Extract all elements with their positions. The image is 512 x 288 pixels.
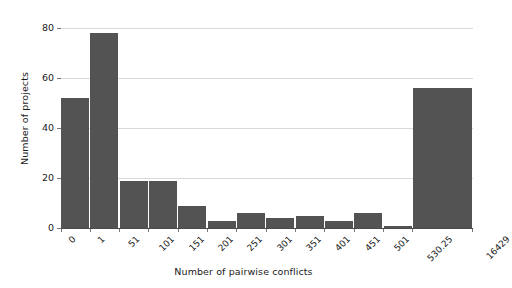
histogram-bar [413,88,472,228]
histogram-bar [178,206,206,229]
plot-area [61,18,473,228]
y-tick-label: 20 [26,173,54,183]
y-tick-label: 40 [26,123,54,133]
histogram-bar [149,181,177,229]
histogram-bar [90,33,118,228]
y-gridline [61,128,473,129]
x-tick-mark [383,229,384,232]
histogram-bar [208,221,236,229]
histogram-bar [325,221,353,229]
x-tick-mark [61,229,62,232]
x-tick-mark [90,229,91,232]
histogram-bar [237,213,265,228]
y-gridline [61,28,473,29]
y-gridline [61,178,473,179]
x-axis-title: Number of pairwise conflicts [0,266,487,277]
x-axis-line [61,228,473,229]
histogram-bar [296,216,324,229]
x-tick-mark [119,229,120,232]
x-tick-label: 16429 [485,234,512,261]
x-tick-mark [412,229,413,232]
x-tick-mark [324,229,325,232]
x-tick-mark [295,229,296,232]
x-tick-mark [472,229,473,232]
x-tick-mark [178,229,179,232]
histogram-bar [61,98,89,228]
histogram-bar [266,218,294,228]
x-tick-mark [207,229,208,232]
y-gridline [61,78,473,79]
y-tick-label: 60 [26,73,54,83]
histogram-bar [354,213,382,228]
histogram-bar [120,181,148,229]
x-tick-mark [148,229,149,232]
y-tick-label: 80 [26,23,54,33]
y-tick-label: 0 [26,223,54,233]
x-tick-mark [266,229,267,232]
x-tick-mark [354,229,355,232]
x-tick-mark [236,229,237,232]
